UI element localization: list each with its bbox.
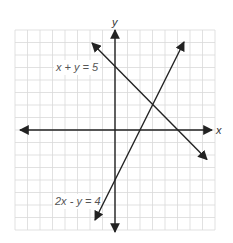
- x-axis-label: x: [215, 124, 222, 136]
- y-axis-label: y: [111, 16, 119, 28]
- line-2x-minus-y-eq-4: [95, 42, 184, 220]
- line-labels: x + y = 5 2x - y = 4: [53, 60, 101, 209]
- label-x-plus-y-eq-5: x + y = 5: [55, 61, 99, 73]
- axes: x y: [20, 16, 222, 232]
- label-2x-minus-y-eq-4: 2x - y = 4: [54, 195, 101, 207]
- coordinate-graph: x y x + y = 5 2x - y = 4: [0, 0, 233, 243]
